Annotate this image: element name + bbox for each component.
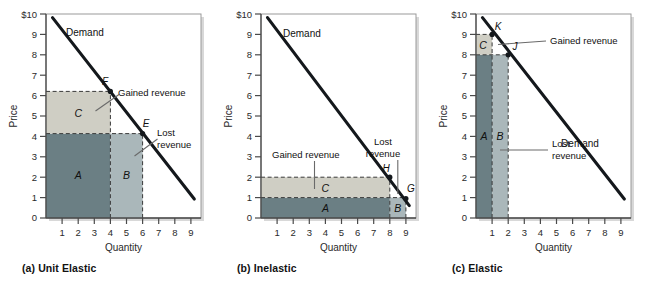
panel-unit-elastic: 0 1 2 3 4 5 6 7 8 9 $10 [0, 0, 215, 284]
panel-inelastic: 0 1 2 3 4 5 6 7 8 9 $10 [215, 0, 430, 284]
x-tick-5: 5 [124, 227, 129, 238]
caption-text-c: Elastic [468, 262, 503, 274]
y-tick-2: 2 [247, 172, 252, 183]
y-tick-1: 1 [32, 192, 37, 203]
gained-revenue-label-a: Gained revenue [118, 87, 186, 98]
plot-area-a: 0 1 2 3 4 5 6 7 8 9 $10 [0, 0, 215, 262]
panel-elastic: 0 1 2 3 4 5 6 7 8 9 $10 [430, 0, 645, 284]
x-tick-7: 7 [371, 227, 376, 238]
y-axis-title-b: Price [223, 104, 234, 127]
caption-letter-b: (b) [237, 262, 251, 274]
y-tick-4: 4 [462, 131, 467, 142]
y-tick-9: 9 [32, 29, 37, 40]
y-tick-labels-a: 0 1 2 3 4 5 6 7 8 9 $10 [21, 9, 37, 224]
lost-revenue-label-a-line2: revenue [157, 139, 191, 150]
y-tick-1: 1 [247, 192, 252, 203]
caption-letter-a: (a) [22, 262, 35, 274]
y-tick-10: $10 [236, 9, 252, 20]
y-tick-0: 0 [32, 212, 37, 223]
y-axis-title-c: Price [438, 104, 449, 127]
lost-revenue-label-c-line2: revenue [552, 150, 586, 161]
y-tick-6: 6 [247, 90, 252, 101]
region-label-b: B [394, 202, 401, 214]
x-axis-title-b: Quantity [320, 242, 357, 253]
x-tick-3: 3 [92, 227, 97, 238]
region-label-a: A [479, 130, 487, 142]
x-tick-9: 9 [618, 227, 623, 238]
point-K-marker [490, 32, 495, 37]
x-tick-2: 2 [291, 227, 296, 238]
point-label-J: J [512, 41, 519, 52]
point-F-marker [108, 89, 113, 94]
caption-b: (b)Inelastic [237, 262, 297, 274]
region-label-b: B [496, 130, 503, 142]
x-tick-2: 2 [506, 227, 511, 238]
caption-c: (c)Elastic [452, 262, 503, 274]
x-tick-8: 8 [172, 227, 177, 238]
x-tick-labels-a: 1 2 3 4 5 6 7 8 9 [59, 227, 193, 238]
gained-revenue-label-b: Gained revenue [272, 149, 340, 160]
x-tick-1: 1 [489, 227, 494, 238]
y-tick-7: 7 [247, 70, 252, 81]
y-tick-6: 6 [462, 90, 467, 101]
caption-letter-c: (c) [452, 262, 465, 274]
plot-area-c: 0 1 2 3 4 5 6 7 8 9 $10 [430, 0, 645, 262]
lost-revenue-label-b-line1: Lost [374, 136, 392, 147]
x-tick-labels-c: 1 2 3 4 5 6 7 8 9 [489, 227, 623, 238]
y-tick-8: 8 [32, 49, 37, 60]
y-tick-10: $10 [21, 9, 37, 20]
x-tick-9: 9 [188, 227, 193, 238]
y-tick-8: 8 [462, 49, 467, 60]
plot-area-b: 0 1 2 3 4 5 6 7 8 9 $10 [215, 0, 430, 262]
y-axis-b [255, 14, 261, 218]
x-tick-2: 2 [76, 227, 81, 238]
x-axis-title-c: Quantity [535, 242, 572, 253]
point-H-marker [387, 175, 392, 180]
y-axis-a [40, 14, 46, 218]
caption-text-a: Unit Elastic [38, 262, 96, 274]
y-tick-9: 9 [247, 29, 252, 40]
caption-text-b: Inelastic [254, 262, 297, 274]
point-label-H: H [382, 163, 390, 174]
x-tick-3: 3 [307, 227, 312, 238]
elasticity-figure: 0 1 2 3 4 5 6 7 8 9 $10 [0, 0, 645, 284]
x-axis-title-a: Quantity [105, 242, 142, 253]
x-tick-9: 9 [403, 227, 408, 238]
y-tick-3: 3 [247, 151, 252, 162]
point-E-marker [140, 131, 145, 136]
y-tick-4: 4 [32, 131, 37, 142]
region-label-a: A [321, 202, 329, 214]
region-label-c: C [74, 107, 82, 119]
y-tick-3: 3 [32, 151, 37, 162]
y-tick-1: 1 [462, 192, 467, 203]
gained-revenue-label-c: Gained revenue [550, 35, 618, 46]
y-tick-2: 2 [462, 172, 467, 183]
x-tick-5: 5 [339, 227, 344, 238]
y-tick-2: 2 [32, 172, 37, 183]
y-tick-8: 8 [247, 49, 252, 60]
y-tick-7: 7 [462, 70, 467, 81]
x-tick-4: 4 [108, 227, 113, 238]
point-label-G: G [407, 183, 415, 194]
x-tick-7: 7 [586, 227, 591, 238]
x-tick-7: 7 [156, 227, 161, 238]
lost-revenue-label-c-line1: Lost [552, 138, 570, 149]
x-tick-6: 6 [355, 227, 360, 238]
region-label-a: A [74, 169, 82, 181]
lost-revenue-label-b-line2: revenue [366, 148, 400, 159]
x-tick-4: 4 [538, 227, 543, 238]
point-label-F: F [102, 76, 109, 87]
demand-label-b: Demand [283, 28, 321, 39]
region-label-c: C [322, 182, 330, 194]
y-tick-labels-c: 0 1 2 3 4 5 6 7 8 9 $10 [451, 9, 467, 224]
point-J-marker [506, 52, 511, 57]
y-tick-4: 4 [247, 131, 252, 142]
y-tick-0: 0 [462, 212, 467, 223]
lost-revenue-label-a-line1: Lost [157, 127, 175, 138]
x-tick-6: 6 [570, 227, 575, 238]
y-tick-5: 5 [462, 110, 467, 121]
y-tick-0: 0 [247, 212, 252, 223]
y-tick-5: 5 [32, 110, 37, 121]
caption-a: (a)Unit Elastic [22, 262, 97, 274]
y-tick-3: 3 [462, 151, 467, 162]
